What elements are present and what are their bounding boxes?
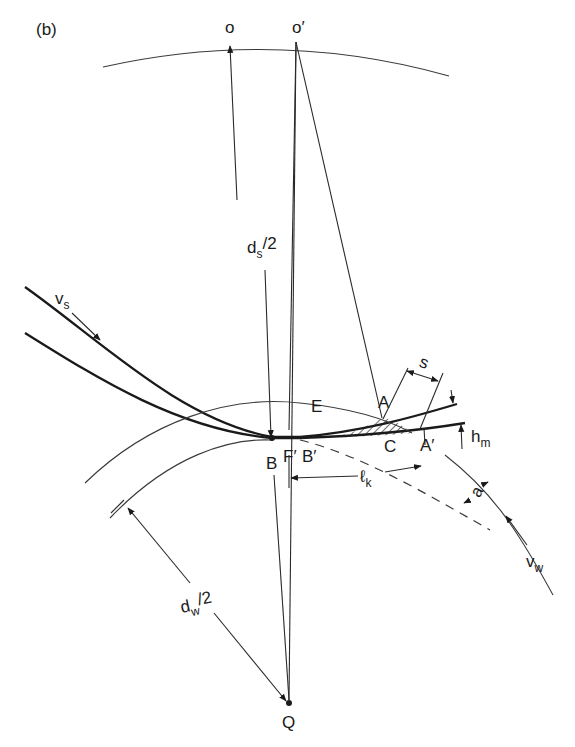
line-Q-to-B — [274, 475, 289, 700]
dw-half-label: dw/2 — [178, 588, 215, 621]
vw-arrow — [506, 516, 527, 545]
panel-label: (b) — [36, 20, 57, 39]
label-E: E — [311, 397, 322, 416]
s-ext-line-right — [420, 373, 443, 429]
label-o: o — [225, 18, 234, 37]
a-arrow-right — [482, 482, 488, 485]
lk-label: ℓk — [359, 467, 373, 490]
hm-arrow-bottom — [461, 425, 462, 449]
label-C: C — [384, 437, 396, 456]
ds-radius-line-lower — [265, 270, 271, 437]
dw-arrow-lower — [214, 613, 286, 701]
ds-radius-line-upper — [230, 46, 237, 200]
lk-arrow-right — [385, 466, 421, 472]
workpiece-surface-upper — [25, 287, 457, 437]
label-B: B — [266, 454, 277, 473]
point-Q-marker — [286, 700, 292, 706]
s-label: s — [417, 352, 431, 373]
s-arrow — [407, 371, 438, 381]
vs-label: vs — [55, 289, 70, 312]
wheel-arc — [103, 50, 449, 76]
ds-half-label: ds/2 — [247, 234, 277, 261]
hm-label: hm — [471, 427, 490, 450]
a-label: a — [466, 482, 487, 500]
line-oprime-to-A — [296, 42, 382, 418]
label-B-prime: B′ — [302, 447, 317, 466]
label-A-prime: A′ — [420, 436, 435, 455]
label-F-prime: F′ — [283, 447, 297, 466]
point-B-marker — [269, 435, 275, 441]
a-arrow-left — [464, 500, 470, 503]
label-o-prime: o′ — [292, 18, 305, 37]
dw-arrow-upper — [128, 508, 190, 583]
workpiece-arc — [110, 440, 272, 518]
hm-arrow-top — [451, 390, 453, 403]
lk-arrow-left — [291, 476, 358, 478]
label-Q: Q — [282, 713, 295, 732]
grinding-contact-diagram: (b) o o′ ds/2 E A A′ B F′ B′ C ℓk s hm — [0, 0, 575, 747]
vw-label: vw — [526, 552, 544, 575]
